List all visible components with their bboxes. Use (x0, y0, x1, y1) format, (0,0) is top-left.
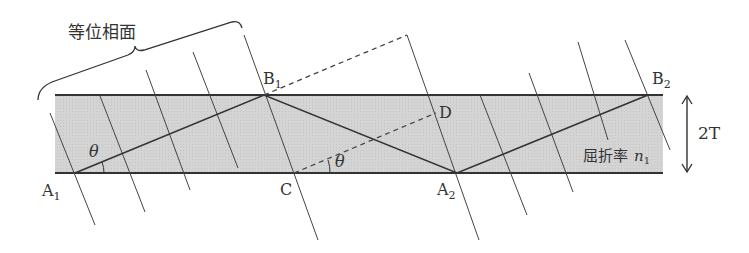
label-a1: A1 (41, 181, 61, 203)
label-d: D (439, 103, 452, 122)
waveguide-diagram: 等位相面 A1 B1 C D A2 B2 θ θ 2T 屈折率n1 (0, 0, 749, 253)
dashed-extension-b1 (264, 35, 407, 95)
angle-label-c: θ (335, 152, 345, 171)
thickness-arrow (682, 96, 692, 172)
refractive-index-label: 屈折率n1 (583, 147, 650, 166)
label-b1: B1 (263, 69, 282, 91)
label-b2: B2 (652, 69, 671, 91)
angle-label-a1: θ (89, 142, 99, 161)
thickness-label: 2T (698, 123, 721, 143)
equiphase-label: 等位相面 (68, 22, 136, 42)
label-a2: A2 (436, 180, 456, 202)
label-c: C (280, 180, 292, 199)
